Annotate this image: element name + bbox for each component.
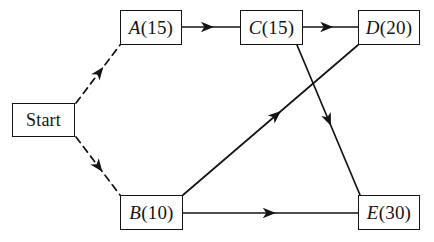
node-d-id: D xyxy=(366,17,380,38)
node-b[interactable]: B(10) xyxy=(120,195,183,230)
node-d-duration: (20) xyxy=(380,17,412,38)
node-e-duration: (30) xyxy=(379,202,411,223)
node-b-duration: (10) xyxy=(141,202,173,223)
node-c-duration: (15) xyxy=(262,17,294,38)
diagram-canvas: StartA(15)C(15)D(20)B(10)E(30) xyxy=(0,0,434,242)
node-a-label: A(15) xyxy=(129,18,173,37)
node-b-id: B xyxy=(129,202,141,223)
node-a-id: A xyxy=(129,17,141,38)
node-d-label: D(20) xyxy=(366,18,412,37)
node-d[interactable]: D(20) xyxy=(358,10,420,45)
node-start[interactable]: Start xyxy=(12,103,75,137)
node-c-label: C(15) xyxy=(249,18,294,37)
node-e[interactable]: E(30) xyxy=(358,195,420,230)
node-e-id: E xyxy=(367,202,379,223)
node-b-label: B(10) xyxy=(129,203,173,222)
node-e-label: E(30) xyxy=(367,203,411,222)
edge-b-d xyxy=(183,45,358,195)
node-c[interactable]: C(15) xyxy=(240,10,303,45)
node-a[interactable]: A(15) xyxy=(120,10,182,45)
node-start-label: Start xyxy=(26,111,61,129)
arrowhead-start-b xyxy=(90,158,106,175)
node-a-duration: (15) xyxy=(141,17,173,38)
arrowhead-start-a xyxy=(91,64,107,81)
node-c-id: C xyxy=(249,17,262,38)
arrowhead-c-e xyxy=(321,112,336,128)
